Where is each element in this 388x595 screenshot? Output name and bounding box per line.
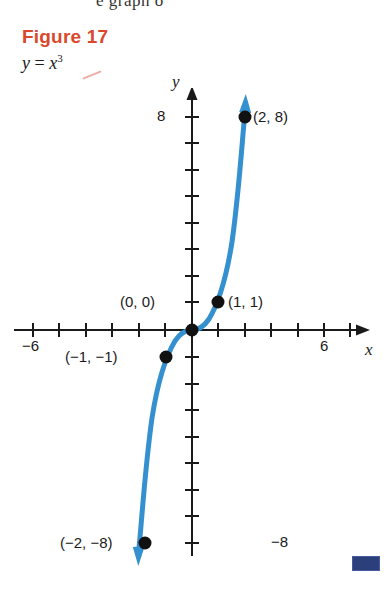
y-axis-group (185, 88, 199, 556)
equation-lhs: y (22, 53, 30, 73)
curve-top-arrowhead (239, 94, 251, 113)
navy-color-swatch (352, 556, 380, 571)
point-1-1 (212, 296, 225, 309)
equation-equals: = (35, 53, 45, 73)
point-neg1-neg1 (160, 351, 173, 364)
x-tick-label-neg6: −6 (22, 337, 39, 354)
y-tick-label-neg8: −8 (271, 533, 288, 550)
y-tick-label-8: 8 (157, 107, 165, 124)
point-label-neg2-neg8: (−2, −8) (60, 534, 113, 551)
equation-base: x (49, 53, 57, 73)
pink-pen-mark (82, 70, 101, 79)
clipped-header-text: e graph o (96, 0, 164, 11)
cubic-function-plot (0, 88, 388, 568)
point-label-neg1-neg1: (−1, −1) (65, 348, 118, 365)
point-0-0 (186, 324, 199, 337)
point-2-8 (239, 111, 252, 124)
x-axis-label: x (365, 340, 373, 360)
y-axis-arrowhead (187, 88, 198, 100)
point-neg2-neg8 (139, 537, 152, 550)
figure-equation: y = x3 (22, 52, 63, 74)
x-axis-arrowhead (356, 325, 370, 336)
point-label-2-8: (2, 8) (253, 108, 288, 125)
y-axis-label: y (172, 72, 180, 92)
x-tick-label-6: 6 (320, 337, 328, 354)
equation-exponent: 3 (57, 52, 63, 64)
point-label-1-1: (1, 1) (228, 293, 263, 310)
point-label-0-0: (0, 0) (120, 293, 155, 310)
figure-title: Figure 17 (22, 26, 108, 48)
